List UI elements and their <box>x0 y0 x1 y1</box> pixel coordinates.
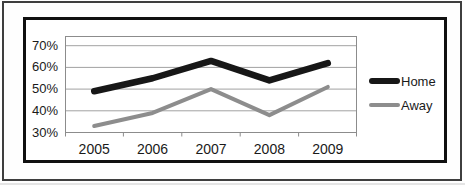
scanned-chart-image: 30%40%50%60%70% 20052006200720082009 Hom… <box>0 0 465 187</box>
x-tick-label-2009: 2009 <box>302 141 354 157</box>
legend-label-away: Away <box>401 98 433 113</box>
x-tick-label-2005: 2005 <box>68 141 120 157</box>
x-tick-label-2006: 2006 <box>127 141 179 157</box>
y-tick-label-70: 70% <box>24 38 58 54</box>
legend-marker-home <box>369 78 400 85</box>
scan-artifact <box>0 183 465 185</box>
legend-label-home: Home <box>401 74 436 89</box>
x-tick-label-2008: 2008 <box>243 141 295 157</box>
y-tick-label-40: 40% <box>24 103 58 119</box>
y-tick-label-60: 60% <box>24 59 58 75</box>
plot-border <box>66 37 357 133</box>
legend: HomeAway <box>369 72 436 114</box>
y-tick-label-50: 50% <box>24 81 58 97</box>
legend-marker-away <box>369 103 400 107</box>
y-tick-label-30: 30% <box>24 125 58 141</box>
legend-item-away: Away <box>369 96 436 114</box>
series-line-away <box>94 87 328 126</box>
series-line-home <box>94 61 328 91</box>
chart-plot-area <box>65 36 357 140</box>
x-tick-label-2007: 2007 <box>185 141 237 157</box>
legend-item-home: Home <box>369 72 436 90</box>
